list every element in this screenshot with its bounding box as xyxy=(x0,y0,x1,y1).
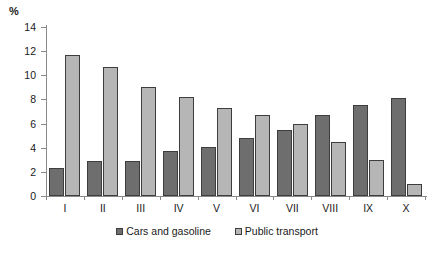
y-axis-tick-label: 2 xyxy=(8,167,36,178)
y-axis-tick-label: 4 xyxy=(8,143,36,154)
bar xyxy=(315,115,330,196)
bar xyxy=(163,151,178,196)
x-axis-tick-label: II xyxy=(84,203,122,214)
x-axis-tick xyxy=(425,196,426,200)
y-axis-tick-label: 0 xyxy=(8,191,36,202)
bar xyxy=(331,142,346,196)
x-axis-tick-label: X xyxy=(387,203,425,214)
bar xyxy=(369,160,384,196)
x-axis-tick xyxy=(122,196,123,200)
x-axis-tick xyxy=(273,196,274,200)
x-axis-tick-label: V xyxy=(198,203,236,214)
legend-item: Cars and gasoline xyxy=(116,226,211,237)
y-axis-tick-label: 6 xyxy=(8,119,36,130)
x-axis-line xyxy=(46,196,427,197)
legend-item: Public transport xyxy=(235,226,318,237)
y-axis-tick-label: 8 xyxy=(8,94,36,105)
x-axis-tick-label: I xyxy=(46,203,84,214)
legend-swatch-icon xyxy=(235,228,242,235)
legend-label: Public transport xyxy=(245,226,318,237)
x-axis-tick xyxy=(311,196,312,200)
x-axis-tick-label: VI xyxy=(236,203,274,214)
bar xyxy=(179,97,194,196)
x-axis-tick-label: III xyxy=(122,203,160,214)
chart-legend: Cars and gasolinePublic transport xyxy=(0,226,434,237)
y-axis-unit-label: % xyxy=(9,5,19,17)
bar xyxy=(201,147,216,196)
x-axis-tick-label: VIII xyxy=(311,203,349,214)
bar xyxy=(293,124,308,196)
bar xyxy=(353,105,368,196)
x-axis-tick xyxy=(46,196,47,200)
bar xyxy=(49,168,64,196)
x-axis-tick xyxy=(84,196,85,200)
x-axis-tick-label: IX xyxy=(349,203,387,214)
plot-area xyxy=(46,27,425,196)
legend-label: Cars and gasoline xyxy=(126,226,211,237)
bar xyxy=(407,184,422,196)
y-axis-tick-label: 10 xyxy=(8,70,36,81)
bar-chart: % 02468101214 IIIIIIIVVVIVIIVIIIIXX Cars… xyxy=(0,0,434,253)
x-axis-tick xyxy=(236,196,237,200)
bar xyxy=(217,108,232,196)
y-axis-tick-label: 14 xyxy=(8,22,36,33)
x-axis-tick-label: IV xyxy=(160,203,198,214)
x-axis-tick xyxy=(349,196,350,200)
x-axis-tick-label: VII xyxy=(273,203,311,214)
bar xyxy=(103,67,118,196)
bar xyxy=(141,87,156,196)
x-axis-tick xyxy=(160,196,161,200)
bar xyxy=(277,130,292,196)
bar xyxy=(125,161,140,196)
bar xyxy=(87,161,102,196)
bar xyxy=(239,138,254,196)
y-axis-tick-label: 12 xyxy=(8,46,36,57)
x-axis-tick xyxy=(387,196,388,200)
bar xyxy=(65,55,80,196)
legend-swatch-icon xyxy=(116,228,123,235)
bar xyxy=(391,98,406,196)
bar xyxy=(255,115,270,196)
x-axis-tick xyxy=(198,196,199,200)
